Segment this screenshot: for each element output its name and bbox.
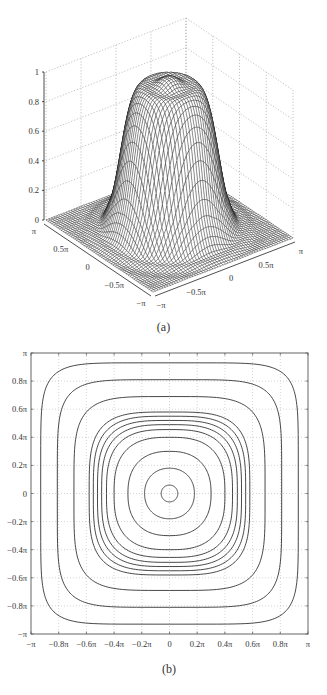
figure-b-contour-plot: π0.8π0.6π0.4π0.2π0−0.2π−0.4π−0.6π−0.8π−π… <box>0 345 327 695</box>
contour-grid <box>31 353 308 634</box>
y-tick-label: 0 <box>23 489 27 499</box>
contour-x-tick-labels: −π−0.8π−0.6π−0.4π−0.2π00.2π0.4π0.6π0.8ππ <box>26 353 310 649</box>
x-tick-label: −π <box>26 639 36 649</box>
caption-b: (b) <box>162 662 176 676</box>
x-tick-label: 0.4π <box>217 639 233 649</box>
y-tick-label: −0.2π <box>7 517 27 527</box>
contour-plot-canvas: π0.8π0.6π0.4π0.2π0−0.2π−0.4π−0.6π−0.8π−π… <box>0 345 327 695</box>
y-tick-label: −0.5π <box>104 280 124 290</box>
y-tick-label: 0.5π <box>53 244 69 254</box>
y-tick-label: 0.4π <box>12 432 28 442</box>
z-axis-tick-labels: 00.20.40.60.81 <box>28 67 44 225</box>
y-tick-label: π <box>23 348 28 358</box>
z-tick-label: 1 <box>35 67 39 77</box>
x-tick-label: −0.4π <box>104 639 124 649</box>
z-tick-label: 0 <box>35 215 39 225</box>
z-tick-label: 0.8 <box>28 97 39 107</box>
y-tick-label: −π <box>136 298 146 308</box>
y-tick-label: 0.6π <box>12 404 28 414</box>
caption-a: (a) <box>157 320 170 334</box>
x-tick-label: π <box>306 639 311 649</box>
y-tick-label: 0 <box>85 262 89 272</box>
x-tick-label: −0.2π <box>132 639 152 649</box>
x-tick-label: −π <box>156 300 166 310</box>
x-tick-label: 0.5π <box>259 260 275 270</box>
y-tick-label: 0.2π <box>12 460 28 470</box>
x-tick-label: 0 <box>167 639 171 649</box>
y-tick-label: −0.6π <box>7 573 27 583</box>
x-tick-label: 0 <box>229 273 233 283</box>
y-tick-label: −π <box>18 629 28 639</box>
surface-plot-canvas: 00.20.40.60.81 π0.5π0−0.5π−π −π−0.5π00.5… <box>0 0 327 345</box>
z-tick-label: 0.6 <box>28 126 39 136</box>
x-tick-label: 0.2π <box>190 639 206 649</box>
z-tick-label: 0.4 <box>28 156 39 166</box>
y-tick-label: −0.4π <box>7 545 27 555</box>
z-tick-label: 0.2 <box>28 185 39 195</box>
y-tick-label: π <box>32 226 37 236</box>
x-tick-label: −0.6π <box>77 639 97 649</box>
y-tick-label: −0.8π <box>7 601 27 611</box>
figure-a-surface-plot: 00.20.40.60.81 π0.5π0−0.5π−π −π−0.5π00.5… <box>0 0 327 345</box>
surface-wireframe <box>46 72 293 292</box>
x-tick-label: 0.8π <box>273 639 289 649</box>
x-tick-label: 0.6π <box>245 639 261 649</box>
y-tick-label: 0.8π <box>12 376 28 386</box>
x-tick-label: −0.5π <box>186 287 206 297</box>
x-tick-label: π <box>299 246 304 256</box>
x-tick-label: −0.8π <box>49 639 69 649</box>
